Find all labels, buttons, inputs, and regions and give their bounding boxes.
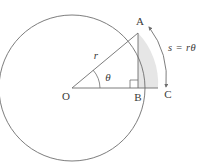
circle-sector-diagram: A O B C r θ s = rθ xyxy=(0,0,208,168)
label-point-c: C xyxy=(164,88,171,100)
angle-arc-theta xyxy=(93,70,100,88)
label-arc-equation: s = rθ xyxy=(168,42,196,53)
label-radius-r: r xyxy=(94,49,99,61)
label-point-b: B xyxy=(134,91,141,103)
label-angle-theta: θ xyxy=(105,71,111,83)
label-point-a: A xyxy=(136,15,144,27)
shaded-sector-region xyxy=(138,33,158,88)
geometry-figure: A O B C r θ s = rθ xyxy=(0,0,208,168)
right-angle-marker xyxy=(130,80,138,88)
label-point-o: O xyxy=(62,90,70,102)
